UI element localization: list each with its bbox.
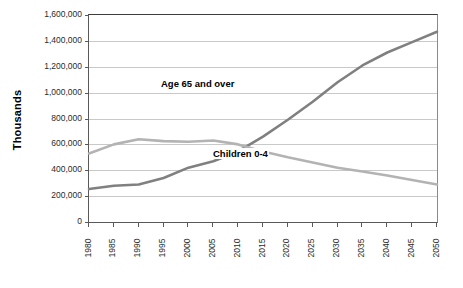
x-tickmark [187,222,188,227]
x-tick-label-text: 2030 [332,239,342,258]
y-axis-title: Thousands [0,0,34,240]
x-tick-label-text: 2010 [232,239,242,258]
x-tick-label-text: 2050 [431,239,441,258]
y-tick-label: 1,600,000 [44,9,82,19]
x-tick-label-text: 1990 [133,239,143,258]
y-axis-tick-labels: 0200,000400,000600,000800,0001,000,0001,… [30,14,86,221]
x-tickmark [237,222,238,227]
series-annotation-children-0-4: Children 0-4 [212,148,269,159]
x-tick-label-text: 2025 [307,239,317,258]
x-tickmark [312,222,313,227]
x-tickmark [212,222,213,227]
x-tickmark [138,222,139,227]
series-line-children-0-4 [89,139,437,184]
series-lines [89,15,437,222]
x-tick-label-text: 2005 [207,239,217,258]
x-tickmark [411,222,412,227]
x-tick-label-text: 1995 [158,239,168,258]
y-tick-label: 1,000,000 [44,87,82,97]
x-tickmark [386,222,387,227]
y-axis-title-label: Thousands [11,90,23,150]
x-tickmark [163,222,164,227]
x-tickmark [88,222,89,227]
x-tick-label-text: 2020 [282,239,292,258]
y-tick-label: 0 [77,216,82,226]
x-tick-label-text: 1980 [83,239,93,258]
y-tick-label: 200,000 [51,190,82,200]
y-tick-label: 1,400,000 [44,35,82,45]
plot-area [88,14,438,223]
x-axis-tick-labels: 1980198519901995200020052010201520202025… [88,229,436,269]
x-axis-tickmarks [88,222,436,227]
x-tickmark [436,222,437,227]
x-tick-label-text: 2035 [356,239,366,258]
x-tickmark [361,222,362,227]
x-tick-label-text: 1985 [108,239,118,258]
x-tickmark [337,222,338,227]
x-tick-label-text: 2045 [406,239,416,258]
x-tick-label-text: 2015 [257,239,267,258]
series-annotation-age-65-and-over: Age 65 and over [160,78,235,89]
x-tickmark [262,222,263,227]
x-tick-label-text: 2040 [381,239,391,258]
y-tick-label: 600,000 [51,138,82,148]
population-projection-line-chart: Thousands 0200,000400,000600,000800,0001… [0,0,463,288]
x-tickmark [287,222,288,227]
x-tick-label: 2050 [416,229,456,269]
y-tick-label: 1,200,000 [44,61,82,71]
x-tickmark [113,222,114,227]
y-tick-label: 800,000 [51,113,82,123]
y-tick-label: 400,000 [51,164,82,174]
x-tick-label-text: 2000 [182,239,192,258]
series-line-age-65-and-over [89,32,437,189]
